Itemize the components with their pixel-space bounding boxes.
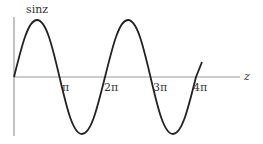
tick-pi: π [62,81,69,94]
tick-2pi: 2π [104,81,118,94]
x-axis-label: z [243,70,250,83]
function-label: sinz [26,3,48,16]
tick-3pi: 3π [153,81,167,94]
sine-plot: sinz z π 2π 3π 4π [0,0,263,144]
tick-4pi: 4π [193,81,207,94]
